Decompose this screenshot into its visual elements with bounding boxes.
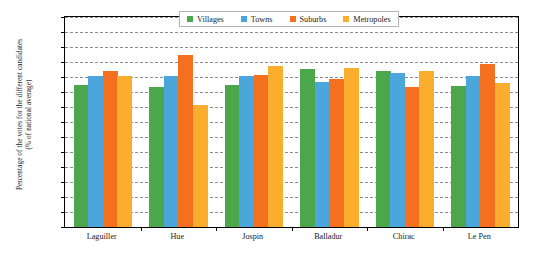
legend-item-metropoles[interactable]: Metropoles — [343, 15, 390, 24]
legend-label: Metropoles — [353, 15, 390, 24]
y-tick-mark — [61, 62, 65, 63]
y-tick-mark — [61, 227, 65, 228]
x-tick-mark — [292, 227, 293, 231]
y-tick-mark — [61, 182, 65, 183]
legend-swatch-icon-towns — [241, 16, 247, 22]
y-tick-mark — [61, 92, 65, 93]
legend-swatch-icon-villages — [187, 16, 193, 22]
y-axis-title: Percentage of the votes for the differen… — [16, 1, 35, 227]
y-tick-mark — [61, 212, 65, 213]
legend-label: Towns — [251, 15, 273, 24]
y-axis-title-line1: Percentage of the votes for the differen… — [16, 39, 24, 190]
axis-ticks — [65, 17, 518, 227]
x-tick-mark — [141, 227, 142, 231]
y-tick-mark — [61, 122, 65, 123]
x-tick-mark — [367, 227, 368, 231]
x-tick-mark — [216, 227, 217, 231]
legend-label: Suburbs — [300, 15, 327, 24]
x-category-label-chirac: Chirac — [366, 232, 442, 242]
y-axis-title-line2: (% of national average) — [25, 1, 34, 227]
x-category-label-le-pen: Le Pen — [442, 232, 518, 242]
chart-legend: VillagesTownsSuburbsMetropoles — [179, 11, 399, 27]
x-tick-mark — [443, 227, 444, 231]
plot-area — [64, 16, 519, 228]
y-tick-mark — [61, 167, 65, 168]
x-category-label-jospin: Jospin — [215, 232, 291, 242]
legend-swatch-icon-metropoles — [343, 16, 349, 22]
legend-label: Villages — [197, 15, 224, 24]
x-category-label-balladur: Balladur — [291, 232, 367, 242]
y-tick-mark — [61, 107, 65, 108]
y-tick-mark — [61, 77, 65, 78]
y-tick-mark — [61, 17, 65, 18]
y-tick-mark — [61, 137, 65, 138]
y-tick-mark — [61, 47, 65, 48]
x-category-label-hue: Hue — [140, 232, 216, 242]
x-category-label-laguiller: Laguiller — [64, 232, 140, 242]
y-tick-mark — [61, 197, 65, 198]
y-tick-mark — [61, 32, 65, 33]
legend-swatch-icon-suburbs — [290, 16, 296, 22]
chart-figure: Percentage of the votes for the differen… — [0, 0, 536, 254]
legend-item-suburbs[interactable]: Suburbs — [290, 15, 327, 24]
y-tick-mark — [61, 152, 65, 153]
legend-item-villages[interactable]: Villages — [187, 15, 224, 24]
legend-item-towns[interactable]: Towns — [241, 15, 273, 24]
